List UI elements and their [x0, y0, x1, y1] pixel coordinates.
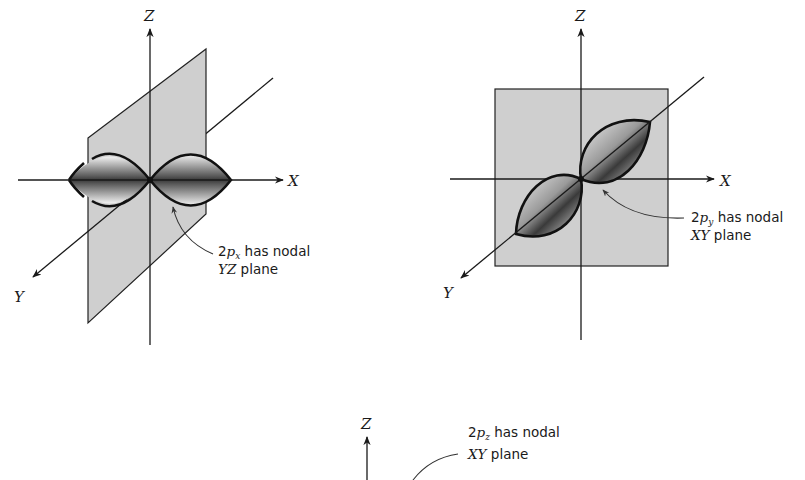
- callout-2py: 2py has nodal: [691, 209, 783, 227]
- y-axis-label: Y: [14, 288, 26, 306]
- origin: [147, 177, 153, 183]
- callout-2px: 2px has nodal: [218, 243, 310, 261]
- y-axis-label: Y: [443, 284, 455, 302]
- z-axis-label: Z: [360, 415, 372, 433]
- z-axis-label: Z: [143, 7, 155, 25]
- svg-text:XY plane: XY plane: [467, 446, 528, 462]
- panel-2pz: Z 2pz has nodal XY plane: [360, 415, 560, 480]
- panel-2py: Z X Y 2py has nodal XY plane: [443, 7, 783, 340]
- callout-leader: [413, 454, 458, 480]
- origin: [578, 176, 584, 182]
- svg-text:XY plane: XY plane: [690, 227, 751, 243]
- z-axis-label: Z: [574, 7, 586, 25]
- callout-2pz: 2pz has nodal: [468, 424, 560, 442]
- p-orbitals-figure: Z X Y 2px has nodal YZ plane Z X Y 2py h…: [0, 0, 805, 480]
- svg-text:YZ plane: YZ plane: [218, 261, 278, 277]
- x-axis-label: X: [287, 172, 300, 190]
- panel-2px: Z X Y 2px has nodal YZ plane: [14, 7, 310, 345]
- x-axis-label: X: [719, 172, 732, 190]
